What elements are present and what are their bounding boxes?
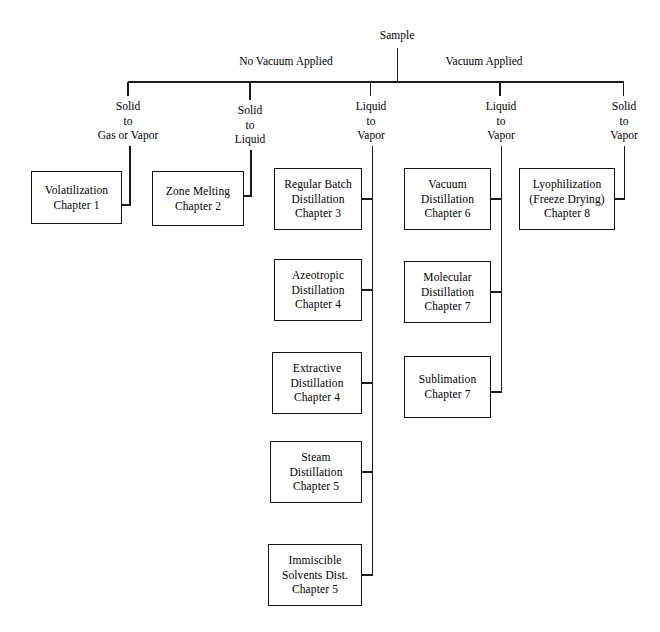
branch-label-no-vacuum: No Vacuum Applied (239, 54, 333, 69)
method-box-immiscible-solvents-distillation[interactable]: Immiscible Solvents Dist. Chapter 5 (268, 544, 362, 606)
branch-label-vacuum: Vacuum Applied (446, 54, 523, 69)
method-box-azeotropic-distillation[interactable]: Azeotropic Distillation Chapter 4 (274, 259, 362, 321)
method-box-vacuum-distillation[interactable]: Vacuum Distillation Chapter 6 (404, 168, 491, 230)
edge-zone-melting (244, 150, 251, 196)
transition-label-liquid-to-vapor-vacuum: Liquid to Vapor (486, 99, 517, 143)
method-box-steam-distillation[interactable]: Steam Distillation Chapter 5 (270, 441, 362, 503)
flowchart-canvas: Sample No Vacuum Applied Vacuum Applied … (0, 0, 660, 632)
method-box-sublimation[interactable]: Sublimation Chapter 7 (404, 356, 491, 418)
transition-label-solid-to-liquid: Solid to Liquid (235, 103, 266, 147)
edge-volatilization (122, 146, 130, 205)
root-label-sample: Sample (380, 28, 415, 43)
transition-label-liquid-to-vapor-no-vacuum: Liquid to Vapor (356, 99, 387, 143)
transition-label-solid-to-gas-or-vapor: Solid to Gas or Vapor (98, 99, 158, 143)
method-box-extractive-distillation[interactable]: Extractive Distillation Chapter 4 (272, 352, 362, 414)
method-box-volatilization[interactable]: Volatilization Chapter 1 (31, 171, 122, 224)
edge-lyophilization (615, 146, 625, 199)
method-box-zone-melting[interactable]: Zone Melting Chapter 2 (152, 171, 244, 226)
method-box-molecular-distillation[interactable]: Molecular Distillation Chapter 7 (404, 261, 491, 323)
method-box-lyophilization[interactable]: Lyophilization (Freeze Drying) Chapter 8 (519, 168, 615, 230)
transition-label-solid-to-vapor-vacuum: Solid to Vapor (610, 99, 637, 143)
method-box-regular-batch-distillation[interactable]: Regular Batch Distillation Chapter 3 (274, 168, 362, 230)
